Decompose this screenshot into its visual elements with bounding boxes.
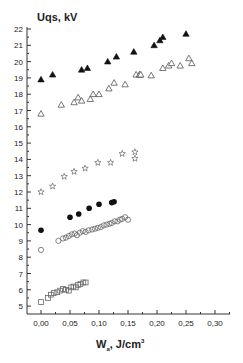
data-point-star <box>119 150 125 156</box>
data-points <box>38 31 195 305</box>
data-point-open-triangle <box>177 62 183 68</box>
data-point-filled-triangle <box>49 71 55 77</box>
data-point-filled-circle <box>111 199 117 205</box>
x-tick-label: 0,00 <box>33 319 49 328</box>
series-stars <box>38 149 138 195</box>
data-point-star <box>38 189 44 195</box>
ticks: 56789101112131415161718192021220,000,050… <box>14 25 229 328</box>
y-tick-label: 16 <box>14 123 23 132</box>
x-axis-title-sup: 3 <box>141 338 145 344</box>
data-point-open-triangle <box>122 81 128 87</box>
series-open-circles <box>38 215 130 253</box>
y-tick-label: 17 <box>14 107 23 116</box>
series-open-squares <box>39 280 88 304</box>
x-tick-label: 0,25 <box>178 319 194 328</box>
y-tick-label: 18 <box>14 90 23 99</box>
y-tick-label: 20 <box>14 58 23 67</box>
data-point-open-triangle <box>96 91 102 97</box>
axes <box>27 27 230 314</box>
y-tick-label: 12 <box>14 188 23 197</box>
data-point-star <box>49 183 55 189</box>
y-tick-label: 22 <box>14 25 23 34</box>
data-point-star <box>71 168 77 174</box>
y-tick-label: 10 <box>14 221 23 230</box>
y-axis-title: Uqs, kV <box>37 11 78 23</box>
data-point-open-circle <box>38 247 43 252</box>
data-point-filled-triangle <box>84 65 90 71</box>
data-point-open-square <box>58 288 63 293</box>
x-tick-label: 0,10 <box>91 319 107 328</box>
x-axis-title-main: W <box>96 338 107 350</box>
data-point-star <box>95 159 101 165</box>
y-tick-label: 11 <box>15 204 24 213</box>
data-point-open-square <box>48 292 53 297</box>
y-tick-label: 6 <box>19 286 24 295</box>
data-point-star <box>61 173 67 179</box>
data-point-star <box>132 149 138 155</box>
data-point-star <box>107 159 113 165</box>
data-point-filled-triangle <box>38 76 44 82</box>
x-tick-label: 0,15 <box>120 319 136 328</box>
data-point-open-triangle <box>90 91 96 97</box>
data-point-open-triangle <box>148 72 154 78</box>
y-tick-label: 21 <box>14 41 23 50</box>
data-point-open-triangle <box>38 111 44 117</box>
data-point-open-square <box>46 296 51 301</box>
series-open-triangles <box>38 55 195 116</box>
y-tick-label: 19 <box>14 74 23 83</box>
data-point-filled-triangle <box>160 34 166 40</box>
data-point-filled-triangle <box>183 31 189 37</box>
series-filled-triangles <box>38 31 189 82</box>
y-tick-label: 14 <box>14 155 23 164</box>
x-tick-label: 0,05 <box>62 319 78 328</box>
data-point-filled-circle <box>96 201 102 207</box>
data-point-open-triangle <box>58 102 64 108</box>
data-point-filled-triangle <box>105 58 111 64</box>
data-point-filled-circle <box>38 228 44 234</box>
data-point-open-triangle <box>160 65 166 71</box>
data-point-filled-circle <box>86 206 92 212</box>
scatter-chart: 56789101112131415161718192021220,000,050… <box>0 0 243 363</box>
y-tick-label: 5 <box>19 302 24 311</box>
y-tick-label: 7 <box>19 270 24 279</box>
y-tick-label: 15 <box>14 139 23 148</box>
x-tick-label: 0,20 <box>149 319 165 328</box>
data-point-star <box>82 165 88 171</box>
data-point-filled-triangle <box>78 67 84 73</box>
y-tick-label: 8 <box>19 253 24 262</box>
data-point-open-square <box>39 300 44 305</box>
data-point-filled-triangle <box>113 54 119 60</box>
data-point-open-triangle <box>111 80 117 86</box>
data-point-open-triangle <box>106 85 112 91</box>
data-point-filled-triangle <box>131 49 137 55</box>
data-point-star <box>132 155 138 161</box>
data-point-filled-circle <box>67 214 73 220</box>
x-tick-label: 0,30 <box>207 319 223 328</box>
x-axis-title-rest: , J/cm <box>110 338 141 350</box>
data-point-open-triangle <box>186 55 192 61</box>
y-tick-label: 9 <box>19 237 24 246</box>
data-point-filled-circle <box>76 211 82 217</box>
x-axis-title: Wa, J/cm3 <box>96 338 145 352</box>
y-tick-label: 13 <box>14 172 23 181</box>
